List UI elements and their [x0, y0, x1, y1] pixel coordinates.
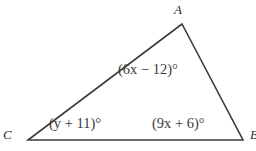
angle-label-b: (9x + 6)° [152, 116, 205, 131]
angle-label-a: (6x − 12)° [118, 62, 178, 77]
vertex-label-c: C [3, 128, 12, 141]
vertex-label-b: B [250, 128, 256, 141]
vertex-label-a: A [174, 3, 182, 16]
angle-label-c: (y + 11)° [49, 116, 101, 131]
triangle-figure: A C B (6x − 12)° (y + 11)° (9x + 6)° [0, 0, 256, 151]
